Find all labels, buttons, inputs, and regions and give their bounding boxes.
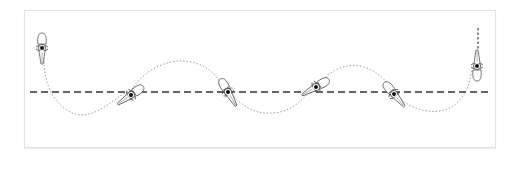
rider-group (36, 33, 483, 110)
rider-icon (36, 33, 48, 64)
dotted-trajectory-path (44, 58, 472, 115)
rider-icon (380, 79, 409, 110)
rider-icon (471, 50, 483, 81)
rider-icon (299, 74, 332, 100)
trajectory-diagram (0, 0, 529, 184)
rider-icon (114, 81, 146, 109)
